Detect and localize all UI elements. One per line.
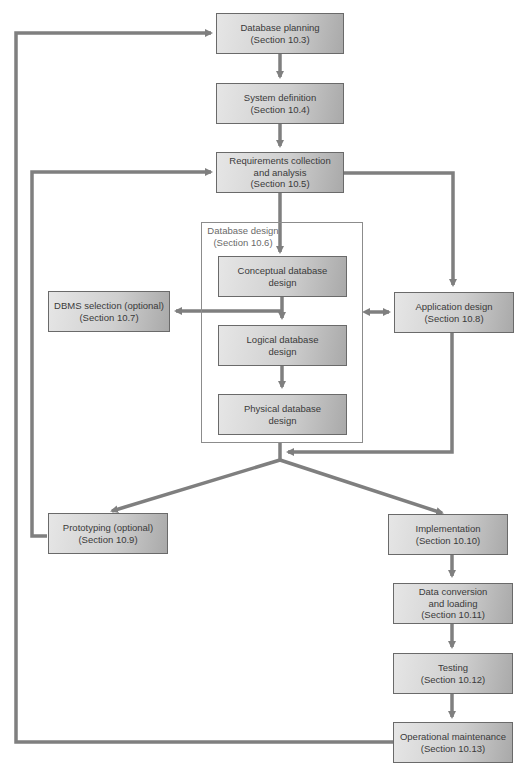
node-label: Prototyping (optional) (63, 522, 153, 534)
node-label: Implementation (416, 523, 481, 535)
edge-merge-to-prototyping (112, 460, 280, 511)
node-physical-design[interactable]: Physical database design (218, 394, 347, 435)
node-label: DBMS selection (optional) (54, 300, 164, 312)
node-label: System definition (244, 92, 316, 104)
node-prototyping[interactable]: Prototyping (optional) (Section 10.9) (48, 513, 168, 554)
node-data-conversion[interactable]: Data conversion and loading (Section 10.… (393, 583, 513, 624)
node-label-cont: design (269, 346, 297, 358)
node-label-cont: and analysis (254, 167, 307, 179)
node-label: Testing (438, 662, 468, 674)
database-design-group-label: Database design (Section 10.6) (203, 225, 283, 248)
node-section: (Section 10.5) (250, 178, 309, 190)
node-label: Physical database (244, 403, 321, 415)
node-system-definition[interactable]: System definition (Section 10.4) (216, 83, 344, 124)
node-label-cont: and loading (428, 598, 477, 610)
node-dbms-selection[interactable]: DBMS selection (optional) (Section 10.7) (48, 291, 170, 332)
edge-merge-to-implementation (280, 460, 442, 513)
node-conceptual-design[interactable]: Conceptual database design (218, 256, 347, 297)
node-implementation[interactable]: Implementation (Section 10.10) (388, 514, 508, 555)
node-testing[interactable]: Testing (Section 10.12) (393, 653, 513, 694)
node-section: (Section 10.13) (421, 743, 485, 755)
node-label-cont: design (269, 277, 297, 289)
node-database-planning[interactable]: Database planning (Section 10.3) (216, 13, 344, 54)
node-label: Conceptual database (238, 265, 328, 277)
node-section: (Section 10.8) (424, 313, 483, 325)
node-section: (Section 10.10) (416, 535, 480, 547)
node-label-cont: design (269, 415, 297, 427)
node-operational-maintenance[interactable]: Operational maintenance (Section 10.13) (393, 722, 513, 763)
node-section: (Section 10.11) (421, 609, 485, 621)
node-section: (Section 10.3) (250, 34, 309, 46)
node-section: (Section 10.9) (78, 534, 137, 546)
node-label: Database planning (240, 22, 319, 34)
node-logical-design[interactable]: Logical database design (218, 325, 347, 366)
edge-prototyping-to-requirements (32, 172, 211, 536)
node-requirements-collection[interactable]: Requirements collection and analysis (Se… (216, 152, 344, 193)
node-label: Operational maintenance (400, 731, 506, 743)
node-application-design[interactable]: Application design (Section 10.8) (394, 292, 514, 333)
node-label: Application design (415, 301, 492, 313)
node-label: Logical database (247, 334, 319, 346)
group-label-line2: (Section 10.6) (203, 237, 283, 249)
node-section: (Section 10.7) (79, 312, 138, 324)
group-label-line1: Database design (203, 225, 283, 237)
node-label: Data conversion (419, 586, 488, 598)
node-label: Requirements collection (229, 155, 330, 167)
node-section: (Section 10.12) (421, 674, 485, 686)
node-section: (Section 10.4) (250, 104, 309, 116)
